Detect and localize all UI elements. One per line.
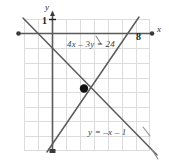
x-tick-label-8: 8 [136, 32, 141, 42]
y-tick-label-1: 1 [42, 16, 47, 26]
x-axis-right-cap [150, 31, 155, 36]
y-axis-label: y [45, 3, 49, 12]
graph-figure: y x 1 8 4x – 3y = 24 y = –x – 1 [0, 0, 169, 164]
equation-label-line2: y = –x – 1 [88, 128, 127, 137]
y-axis-top-arrow [50, 11, 55, 16]
coordinate-plane-svg [0, 0, 169, 164]
equation-label-line1: 4x – 3y = 24 [67, 40, 115, 49]
y-axis-bottom-cap [50, 149, 56, 153]
x-axis-left-cap [16, 31, 21, 36]
x-axis-label: x [157, 25, 161, 34]
scan-artifact-marks [96, 36, 158, 159]
intersection-point [80, 84, 88, 92]
